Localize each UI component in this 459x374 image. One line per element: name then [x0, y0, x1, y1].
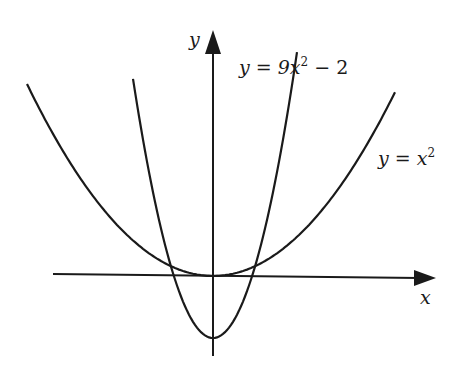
- curve-label-narrow: y = 9x2 − 2: [239, 56, 348, 78]
- label-var: x: [290, 56, 301, 78]
- curve-y-equals-x-squared: [27, 84, 395, 276]
- label-prefix: y = 9: [239, 56, 290, 78]
- label-prefix: y =: [378, 147, 417, 169]
- diagram-canvas: y x y = 9x2 − 2 y = x2: [0, 0, 459, 374]
- x-axis: [53, 274, 420, 278]
- x-axis-label: x: [420, 286, 431, 308]
- plot-area: [0, 0, 459, 374]
- y-axis-label: y: [189, 28, 200, 50]
- label-exp: 2: [427, 146, 435, 160]
- y-axis-arrow-icon: [205, 30, 221, 54]
- x-axis-arrow-icon: [414, 270, 436, 286]
- curve-y-equals-9x-squared-minus-2: [133, 52, 297, 338]
- label-suffix: − 2: [308, 56, 348, 78]
- curve-label-wide: y = x2: [378, 147, 435, 169]
- label-var: x: [417, 147, 428, 169]
